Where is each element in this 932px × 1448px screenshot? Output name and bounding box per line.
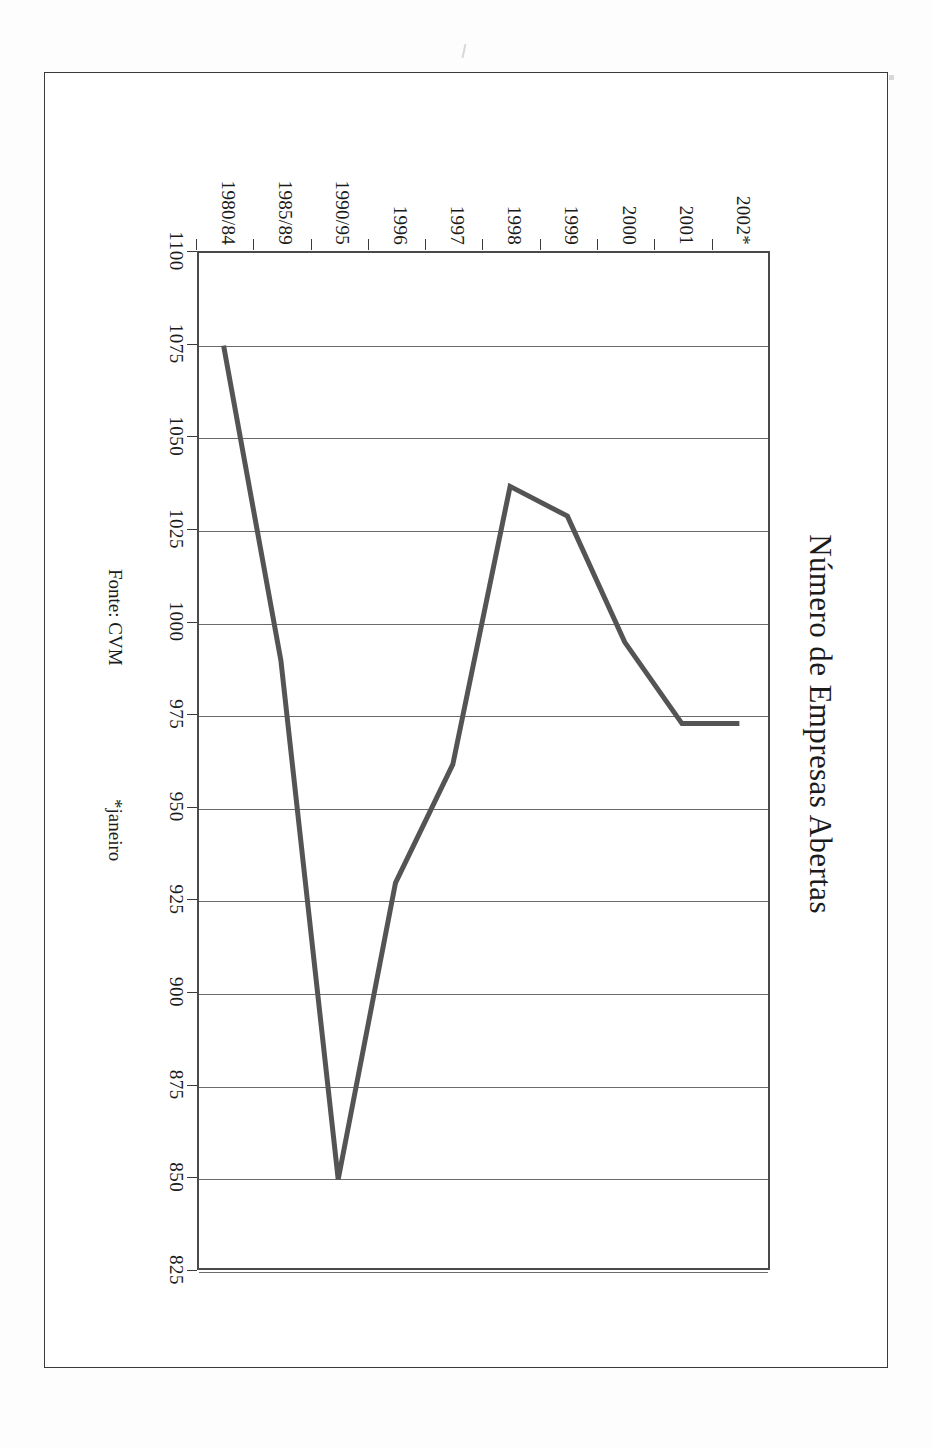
category-axis-label: 1996 (389, 133, 411, 245)
value-axis-tick (187, 1085, 197, 1086)
chart-title: Número de Empresas Abertas (802, 119, 838, 1329)
value-axis-tick (187, 436, 197, 437)
category-axis-label: 1990/95 (331, 133, 353, 245)
value-axis-label: 975 (165, 679, 187, 749)
category-axis-label: 1997 (446, 133, 468, 245)
rotated-chart-stage: Número de Empresas Abertas 1100107510501… (66, 119, 866, 1329)
category-axis-tick (368, 239, 369, 250)
value-axis-tick (187, 807, 197, 808)
category-axis-tick (425, 239, 426, 250)
value-axis-label: 850 (165, 1142, 187, 1212)
category-axis-tick (597, 239, 598, 250)
category-axis-label: 1985/89 (274, 133, 296, 245)
category-axis-tick (311, 239, 312, 250)
category-axis-label: 2000 (618, 133, 640, 245)
category-axis-tick (253, 239, 254, 250)
series-line-empresas-abertas (224, 346, 740, 1180)
value-axis-tick (187, 344, 197, 345)
value-axis-label: 925 (165, 864, 187, 934)
gridline (199, 1272, 768, 1273)
value-axis-label: 950 (165, 772, 187, 842)
chart-figure: Número de Empresas Abertas 1100107510501… (66, 119, 866, 1329)
value-axis-tick (187, 622, 197, 623)
source-note: Fonte: CVM (104, 569, 126, 666)
category-axis-label: 1980/84 (217, 133, 239, 245)
value-axis-label: 1100 (165, 216, 187, 286)
value-axis-label: 1050 (165, 401, 187, 471)
category-axis-tick (712, 239, 713, 250)
plot-area (197, 251, 770, 1270)
value-axis-tick (187, 251, 197, 252)
value-axis-label: 1075 (165, 309, 187, 379)
value-axis-tick (187, 1177, 197, 1178)
value-axis-label: 1000 (165, 587, 187, 657)
category-axis-label: 2001 (675, 133, 697, 245)
series-line-chart (195, 253, 768, 1272)
scan-speck (462, 44, 467, 58)
category-axis-tick (483, 239, 484, 250)
category-axis-label: 2002* (732, 133, 754, 245)
scan-speck (889, 75, 894, 80)
value-axis-label: 825 (165, 1235, 187, 1305)
value-axis-label: 1025 (165, 494, 187, 564)
category-axis-tick (196, 239, 197, 250)
value-axis-tick (187, 529, 197, 530)
category-axis-label: 1998 (503, 133, 525, 245)
page-canvas: Número de Empresas Abertas 1100107510501… (0, 0, 932, 1448)
asterisk-footnote: *janeiro (104, 799, 126, 861)
value-axis-label: 875 (165, 1050, 187, 1120)
value-axis-tick (187, 992, 197, 993)
category-axis-label: 1999 (560, 133, 582, 245)
category-axis-tick (540, 239, 541, 250)
category-axis-tick (654, 239, 655, 250)
value-axis-tick (187, 899, 197, 900)
value-axis-tick (187, 714, 197, 715)
value-axis-label: 900 (165, 957, 187, 1027)
value-axis-tick (187, 1270, 197, 1271)
